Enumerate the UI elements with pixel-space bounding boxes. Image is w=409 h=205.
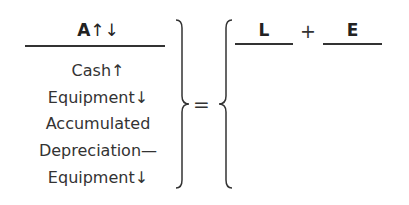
liabilities-underline	[235, 43, 293, 45]
assets-arrows: ↑↓	[90, 20, 119, 40]
asset-item-equipment: Equipment↓	[25, 84, 171, 111]
assets-underline	[25, 45, 165, 47]
equity-header: E	[323, 20, 382, 40]
assets-letter: A	[77, 20, 90, 40]
equals-sign: =	[193, 92, 210, 116]
plus-sign: +	[300, 20, 316, 42]
asset-item-cash: Cash↑	[25, 57, 171, 84]
asset-item-depreciation: Depreciation—	[25, 137, 171, 164]
equity-underline	[323, 43, 382, 45]
asset-item-accumulated: Accumulated	[25, 110, 171, 137]
assets-header: A↑↓	[25, 20, 171, 40]
liabilities-header: L	[235, 20, 293, 40]
asset-item-equipment-2: Equipment↓	[25, 164, 171, 191]
